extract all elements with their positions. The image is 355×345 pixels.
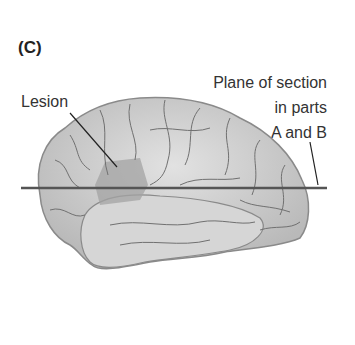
brain-diagram (0, 0, 355, 345)
plane-leader-line (310, 142, 318, 185)
